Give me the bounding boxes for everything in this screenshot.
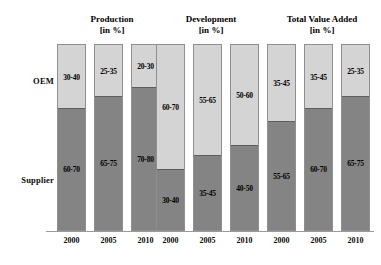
x-axis-tick-label: 2005: [298, 236, 339, 245]
bar-value-label-supplier: 55-65: [268, 172, 295, 181]
axis-label-supplier: Supplier: [0, 175, 54, 185]
bar-segment-oem: 35-45: [305, 45, 332, 110]
bar-value-label-oem: 60-70: [157, 103, 184, 112]
bar-segment-supplier: 65-75: [95, 96, 122, 230]
bar-value-label-supplier: 65-75: [342, 159, 369, 168]
panel-title-total-value-added: Total Value Added [in %]: [252, 14, 381, 36]
stacked-bar: 35-4560-70: [304, 44, 333, 231]
panel-unit-text: [in %]: [252, 25, 381, 36]
bar-value-label-oem: 30-40: [58, 73, 85, 82]
x-axis-tick-label: 2000: [150, 236, 191, 245]
x-axis-tick-label: 2005: [88, 236, 129, 245]
bar-value-label-supplier: 60-70: [58, 165, 85, 174]
x-axis-tick-label: 2005: [187, 236, 228, 245]
bar-segment-oem: 55-65: [194, 45, 221, 157]
stacked-bar: 55-6535-45: [193, 44, 222, 231]
bar-segment-oem: 50-60: [231, 45, 258, 147]
bar-value-label-oem: 25-35: [95, 67, 122, 76]
panel-title-text: Development: [186, 14, 237, 24]
bar-segment-supplier: 70-80: [132, 87, 159, 230]
stacked-bar: 25-3565-75: [94, 44, 123, 231]
bar-segment-oem: 35-45: [268, 45, 295, 123]
bar-value-label-oem: 35-45: [305, 73, 332, 82]
bar-segment-supplier: 40-50: [231, 145, 258, 230]
bar-value-label-supplier: 60-70: [305, 165, 332, 174]
bar-segment-supplier: 35-45: [194, 155, 221, 230]
bar-segment-oem: 30-40: [58, 45, 85, 110]
bar-value-label-oem: 35-45: [268, 79, 295, 88]
bar-value-label-supplier: 40-50: [231, 184, 258, 193]
x-axis-tick-label: 2000: [261, 236, 302, 245]
bar-segment-oem: 25-35: [342, 45, 369, 98]
bar-segment-supplier: 65-75: [342, 96, 369, 230]
bar-segment-supplier: 60-70: [305, 108, 332, 230]
bar-value-label-supplier: 30-40: [157, 196, 184, 205]
bar-segment-oem: 25-35: [95, 45, 122, 98]
stacked-bar: 30-4060-70: [57, 44, 86, 231]
bar-segment-oem: 20-30: [132, 45, 159, 89]
bar-segment-supplier: 60-70: [58, 108, 85, 230]
bar-segment-supplier: 30-40: [157, 169, 184, 230]
x-axis-tick-label: 2010: [335, 236, 376, 245]
bar-value-label-oem: 50-60: [231, 91, 258, 100]
stacked-bar: 25-3565-75: [341, 44, 370, 231]
bar-segment-oem: 60-70: [157, 45, 184, 171]
stacked-bar-chart: OEM Supplier Production [in %] Developme…: [0, 0, 381, 265]
panel-title-text: Total Value Added: [287, 14, 358, 24]
bar-value-label-oem: 25-35: [342, 67, 369, 76]
x-axis-tick-label: 2010: [224, 236, 265, 245]
axis-label-oem: OEM: [6, 76, 54, 86]
bar-value-label-supplier: 65-75: [95, 159, 122, 168]
stacked-bar: 60-7030-40: [156, 44, 185, 231]
bar-segment-supplier: 55-65: [268, 121, 295, 230]
bar-value-label-oem: 55-65: [194, 96, 221, 105]
stacked-bar: 50-6040-50: [230, 44, 259, 231]
x-axis-tick-label: 2000: [51, 236, 92, 245]
panel-title-text: Production: [91, 14, 134, 24]
bar-value-label-oem: 20-30: [132, 62, 159, 71]
axis-baseline: [46, 231, 374, 232]
bar-value-label-supplier: 35-45: [194, 189, 221, 198]
stacked-bar: 35-4555-65: [267, 44, 296, 231]
bar-value-label-supplier: 70-80: [132, 155, 159, 164]
